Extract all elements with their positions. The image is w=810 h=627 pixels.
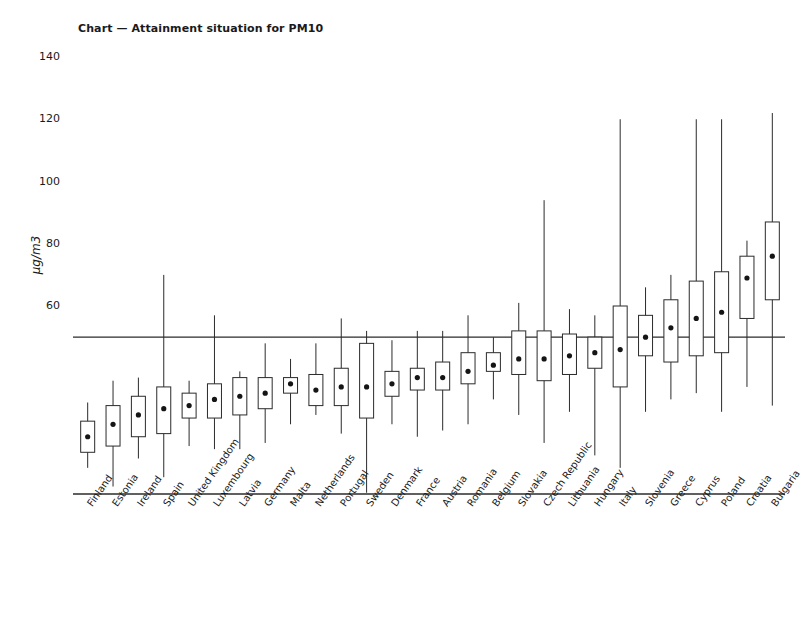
mean-marker bbox=[744, 275, 749, 280]
box-rect bbox=[512, 331, 526, 375]
boxplot-romania bbox=[461, 315, 475, 424]
mean-marker bbox=[491, 363, 496, 368]
boxplot-bulgaria bbox=[765, 113, 779, 406]
boxplot-denmark bbox=[385, 340, 399, 424]
mean-marker bbox=[668, 325, 673, 330]
box-rect bbox=[537, 331, 551, 381]
mean-marker bbox=[618, 347, 623, 352]
boxplot-ireland bbox=[131, 378, 145, 459]
mean-marker bbox=[694, 316, 699, 321]
boxplot-hungary bbox=[588, 315, 602, 455]
boxplot-greece bbox=[664, 275, 678, 400]
mean-marker bbox=[339, 384, 344, 389]
mean-marker bbox=[263, 391, 268, 396]
box-rect bbox=[664, 300, 678, 362]
mean-marker bbox=[465, 369, 470, 374]
mean-marker bbox=[415, 375, 420, 380]
mean-marker bbox=[389, 381, 394, 386]
boxplot-malta bbox=[284, 359, 298, 424]
box-rect bbox=[765, 222, 779, 300]
mean-marker bbox=[592, 350, 597, 355]
boxplot-poland bbox=[715, 119, 729, 412]
mean-marker bbox=[187, 403, 192, 408]
boxplot-cyprus bbox=[689, 119, 703, 393]
mean-marker bbox=[440, 375, 445, 380]
mean-marker bbox=[136, 412, 141, 417]
mean-marker bbox=[542, 356, 547, 361]
box-rect bbox=[613, 306, 627, 387]
mean-marker bbox=[110, 422, 115, 427]
boxplot-finland bbox=[81, 402, 95, 467]
boxplot-italy bbox=[613, 119, 627, 468]
mean-marker bbox=[212, 397, 217, 402]
mean-marker bbox=[237, 394, 242, 399]
boxplot-spain bbox=[157, 275, 171, 477]
boxplot-austria bbox=[436, 331, 450, 431]
mean-marker bbox=[288, 381, 293, 386]
boxplot-united-kingdom bbox=[182, 381, 196, 446]
box-rect bbox=[740, 256, 754, 318]
boxplot-plot-area bbox=[0, 0, 810, 627]
chart-container: Chart — Attainment situation for PM10 µg… bbox=[0, 0, 810, 627]
mean-marker bbox=[719, 310, 724, 315]
mean-marker bbox=[516, 356, 521, 361]
mean-marker bbox=[567, 353, 572, 358]
boxplot-czech-republic bbox=[537, 200, 551, 443]
boxplot-germany bbox=[258, 343, 272, 443]
mean-marker bbox=[364, 384, 369, 389]
box-rect bbox=[486, 353, 500, 372]
box-rect bbox=[461, 353, 475, 384]
boxplot-luxembourg bbox=[207, 315, 221, 449]
mean-marker bbox=[161, 406, 166, 411]
boxplot-estonia bbox=[106, 381, 120, 487]
mean-marker bbox=[313, 387, 318, 392]
boxplot-croatia bbox=[740, 241, 754, 387]
mean-marker bbox=[770, 254, 775, 259]
boxplot-netherlands bbox=[309, 343, 323, 415]
boxplot-slovakia bbox=[512, 303, 526, 415]
mean-marker bbox=[643, 335, 648, 340]
boxplot-belgium bbox=[486, 337, 500, 399]
mean-marker bbox=[85, 434, 90, 439]
box-rect bbox=[360, 343, 374, 418]
boxplot-portugal bbox=[334, 318, 348, 433]
boxplot-lithuania bbox=[562, 309, 576, 412]
boxplot-slovenia bbox=[639, 287, 653, 412]
boxplot-france bbox=[410, 331, 424, 437]
